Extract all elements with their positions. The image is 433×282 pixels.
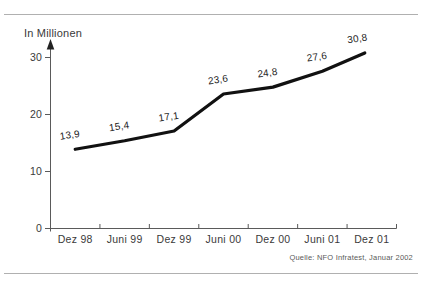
data-point-label: 27,6 [306, 50, 328, 64]
x-tick-label: Dez 01 [354, 233, 389, 245]
chart-canvas: In Millionen 0102030Dez 98Juni 99Dez 99J… [0, 0, 433, 282]
data-point-label: 30,8 [346, 32, 368, 46]
x-tick-label: Dez 00 [255, 233, 290, 245]
y-tick-label: 30 [30, 51, 42, 63]
data-point-label: 15,4 [108, 119, 130, 133]
x-tick-label: Juni 99 [107, 233, 143, 245]
bottom-divider [4, 273, 418, 274]
data-point-label: 17,1 [158, 110, 180, 124]
x-tick-label: Juni 01 [304, 233, 340, 245]
y-tick-label: 10 [30, 165, 42, 177]
data-point-label: 23,6 [207, 73, 229, 87]
data-point-label: 13,9 [59, 128, 81, 142]
x-tick-label: Dez 99 [157, 233, 192, 245]
x-tick-label: Juni 00 [206, 233, 242, 245]
source-caption: Quelle: NFO Infratest, Januar 2002 [289, 253, 413, 262]
y-axis-arrow-icon [47, 39, 55, 50]
x-tick-label: Dez 98 [58, 233, 93, 245]
data-point-label: 24,8 [257, 66, 279, 80]
y-tick-label: 0 [36, 222, 42, 234]
line-chart: 0102030Dez 98Juni 99Dez 99Juni 00Dez 00J… [0, 0, 433, 282]
data-line [75, 53, 365, 149]
y-tick-label: 20 [30, 108, 42, 120]
